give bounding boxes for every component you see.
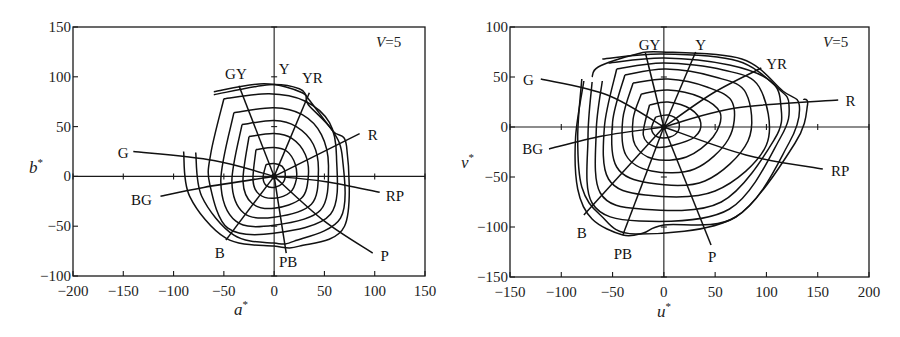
x-tick-label: −100 [158,283,189,299]
hue-label-rp: RP [386,188,404,204]
y-axis-letter: b [29,158,38,177]
hue-label-pb: PB [279,254,297,270]
x-tick-label: 0 [660,284,668,300]
hue-label-g: G [118,145,129,161]
chroma-contours [575,52,808,236]
y-tick-label: −50 [485,169,508,185]
hue-label-rp: RP [831,163,849,179]
y-tick-label: 150 [49,19,72,35]
chart-lab: −200−150−100−50050100150−100−50050100150… [29,19,436,319]
chart-luv: −150−100−50050100150200−150−100−50050100… [461,19,880,321]
hue-label-g: G [523,72,534,88]
y-tick-label: 50 [493,69,508,85]
x-tick-label: 200 [858,284,881,300]
x-axis-letter: u [657,302,666,321]
value-annotation-number: =5 [832,34,848,50]
hue-line-pb [623,127,664,235]
y-axis-title: b* [29,156,43,177]
hue-label-r: R [368,127,378,143]
y-axis-title: v* [461,151,474,172]
x-tick-label: −150 [108,283,139,299]
y-tick-label: −100 [40,268,71,284]
hue-label-r: R [846,93,856,109]
hue-label-bg: BG [131,192,152,208]
x-tick-label: −50 [601,284,624,300]
tick-labels: −200−150−100−50050100150−100−50050100150 [40,19,436,299]
hue-label-b: B [215,245,225,261]
y-axis-star: * [38,156,44,168]
x-axis-star: * [666,300,672,312]
origin-hub [661,124,667,130]
x-tick-label: 150 [414,283,437,299]
hue-label-y: Y [695,37,706,53]
hue-line-pb [274,176,286,253]
x-tick-label: 100 [755,284,778,300]
chroma-contour [232,121,319,219]
y-tick-label: 0 [501,119,509,135]
y-tick-label: −50 [48,218,71,234]
hue-label-gy: GY [639,37,661,53]
x-tick-label: −200 [58,283,89,299]
hue-labels: YYRGYGRBGRPBPBP [118,61,404,270]
x-axis-title: a* [234,298,248,319]
x-tick-label: 50 [708,284,723,300]
hue-label-b: B [577,225,587,241]
value-annotation: V=5 [376,34,401,50]
hue-label-bg: BG [522,141,543,157]
x-tick-label: 0 [270,283,278,299]
hue-label-yr: YR [302,70,323,86]
x-tick-label: 100 [363,283,386,299]
value-annotation: V=5 [823,34,848,50]
hue-label-p: P [708,249,716,265]
y-tick-label: 100 [486,19,509,35]
origin-hub [271,173,277,179]
hue-label-yr: YR [766,56,787,72]
munsell-charts: −200−150−100−50050100150−100−50050100150… [0,0,900,337]
value-annotation-number: =5 [385,34,401,50]
x-axis-letter: a [234,300,243,319]
x-axis-star: * [243,298,249,310]
y-tick-label: −150 [477,269,508,285]
y-tick-label: 100 [49,69,72,85]
chroma-contours [184,84,350,248]
x-tick-label: −100 [546,284,577,300]
hue-line-rp [274,176,380,192]
x-tick-label: 150 [806,284,829,300]
x-axis-title: u* [657,300,671,321]
x-tick-label: −150 [495,284,526,300]
x-tick-label: −50 [212,283,235,299]
y-tick-label: 50 [56,119,71,135]
y-tick-label: −100 [477,219,508,235]
x-tick-label: 50 [317,283,332,299]
hue-label-pb: PB [614,246,632,262]
chroma-contour [632,90,721,160]
hue-label-gy: GY [225,66,247,82]
hue-label-p: P [381,248,389,264]
y-tick-label: 0 [64,168,72,184]
hue-label-y: Y [279,61,290,77]
y-axis-star: * [469,151,475,163]
hue-lines [541,52,838,245]
